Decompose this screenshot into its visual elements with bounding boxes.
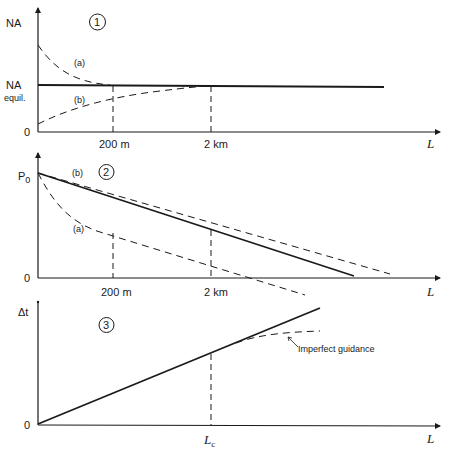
panel2-curve-b (38, 173, 390, 274)
panel2-tick-2km: 2 km (204, 286, 228, 298)
panel1-level-label-2: equil. (4, 93, 26, 103)
panel3-number: 3 (103, 319, 109, 331)
panel1-tick-2km: 2 km (204, 138, 228, 150)
panel2-x-label: L (426, 284, 434, 299)
panel2-curve-a (38, 173, 305, 295)
panel1-origin-label: 0 (24, 126, 30, 138)
panel2-y-label: P0 (18, 170, 30, 185)
panel1-x-label: L (426, 136, 434, 151)
panel1-level-label-1: NA (6, 79, 22, 91)
panel2-y-label-main: P (18, 170, 25, 182)
panel3-ideal-line (38, 308, 320, 424)
diagram-canvas: NA 1 NA equil. 0 L (a) (b) 200 m 2 km P0… (0, 0, 451, 455)
panel2-y-label-sub: 0 (25, 175, 30, 185)
panel3-x-label: L (426, 431, 434, 446)
panel3-y-label: Δt (18, 306, 28, 318)
panel1-y-label: NA (6, 17, 22, 29)
panel2-number: 2 (103, 166, 109, 178)
panel2-reference-line (38, 173, 354, 276)
panel3-tick-lc-sub: c (211, 439, 215, 449)
panel-3: Δt 3 0 L Imperfect guidance Lc (18, 301, 440, 449)
panel1-tick-200m: 200 m (99, 138, 130, 150)
panel3-annotation-label: Imperfect guidance (298, 344, 375, 354)
panel3-origin-label: 0 (24, 419, 30, 431)
panel2-tick-200m: 200 m (101, 286, 132, 298)
panel3-y-axis-tip (37, 301, 39, 303)
panel3-x-axis (38, 425, 440, 426)
panel2-curve-a-label: (a) (73, 224, 84, 234)
panel1-curve-b-label: (b) (74, 95, 85, 105)
panel2-origin-label: 0 (24, 272, 30, 284)
panel3-tick-lc-main: L (203, 432, 211, 447)
panel-1: NA 1 NA equil. 0 L (a) (b) 200 m 2 km (4, 8, 440, 151)
panel1-curve-a-label: (a) (74, 58, 85, 68)
panel1-number: 1 (94, 16, 100, 28)
panel2-curve-b-label: (b) (72, 168, 83, 178)
panel3-tick-lc: Lc (203, 432, 215, 449)
panel3-annotation-leader (288, 337, 298, 347)
panel-2: P0 2 0 L (b) (a) 200 m 2 km (18, 153, 440, 299)
panel1-curve-b (38, 86, 215, 124)
